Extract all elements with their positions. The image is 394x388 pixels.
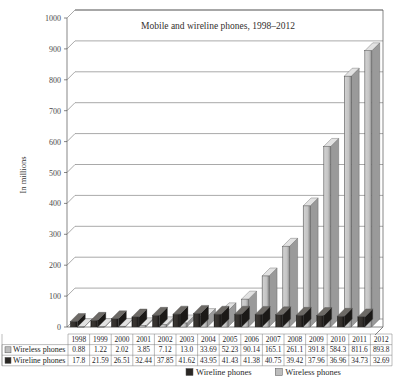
y-axis-tick-label: 900 <box>49 45 61 54</box>
data-table: 1998199920002001200220032004200520062007… <box>2 334 392 366</box>
table-cell: 37.96 <box>308 356 325 365</box>
table-header-year: 2009 <box>309 335 324 344</box>
table-cell: 893.8 <box>373 345 390 354</box>
y-axis-tick-label: 100 <box>49 292 61 301</box>
table-cell: 33.69 <box>200 345 217 354</box>
table-header-year: 2010 <box>331 335 346 344</box>
table-cell: 40.75 <box>265 356 282 365</box>
bar-series-group <box>70 43 379 328</box>
table-cell: 165.1 <box>265 345 282 354</box>
table-header-year: 2002 <box>158 335 173 344</box>
y-axis-tick-labels: 01002003004005006007008009001000 <box>45 14 67 332</box>
table-header-year: 2007 <box>266 335 281 344</box>
table-cell: 39.42 <box>286 356 303 365</box>
y-axis-tick-label: 300 <box>49 230 61 239</box>
table-header-year: 2004 <box>201 335 216 344</box>
table-cell: 41.62 <box>178 356 195 365</box>
table-cell: 32.69 <box>373 356 390 365</box>
table-cell: 34.73 <box>351 356 368 365</box>
table-header-year: 1998 <box>71 335 86 344</box>
bar-wireless-2010 <box>324 138 339 327</box>
table-cell: 3.85 <box>137 345 150 354</box>
y-axis-tick-label: 700 <box>49 107 61 116</box>
table-cell: 52.23 <box>222 345 239 354</box>
table-cell: 37.85 <box>157 356 174 365</box>
table-cell: 43.95 <box>200 356 217 365</box>
table-cell: 1.22 <box>94 345 107 354</box>
y-axis-tick-label: 800 <box>49 76 61 85</box>
y-axis-tick-label: 200 <box>49 261 61 270</box>
legend-swatch-wireless <box>275 369 282 376</box>
table-cell: 90.14 <box>243 345 260 354</box>
table-cell: 41.38 <box>243 356 260 365</box>
table-cell: 7.12 <box>159 345 172 354</box>
table-cell: 584.3 <box>330 345 347 354</box>
y-axis-title: In millions <box>18 156 28 193</box>
legend-swatch-wireline <box>186 369 193 376</box>
table-cell: 0.88 <box>72 345 85 354</box>
y-axis-tick-label: 400 <box>49 199 61 208</box>
table-cell: 21.59 <box>92 356 109 365</box>
legend-label-wireless: Wireless phones <box>285 367 341 377</box>
table-cell: 391.8 <box>308 345 325 354</box>
table-header-year: 2003 <box>179 335 194 344</box>
gridline <box>67 103 383 111</box>
table-cell: 13.0 <box>180 345 193 354</box>
table-cell: 261.1 <box>286 345 303 354</box>
y-axis-tick-label: 600 <box>49 138 61 147</box>
gridline <box>67 41 383 49</box>
table-cell: 811.6 <box>351 345 368 354</box>
table-header-year: 2008 <box>287 335 302 344</box>
table-header-year: 2000 <box>115 335 130 344</box>
legend-label-wireline: Wireline phones <box>196 367 252 377</box>
chart-legend: Wireline phonesWireless phones <box>186 367 341 377</box>
y-axis-tick-label: 0 <box>57 323 61 332</box>
table-header-year: 2001 <box>136 335 151 344</box>
table-header-year: 1999 <box>93 335 108 344</box>
table-row-label: Wireline phones <box>13 356 65 365</box>
chart-figure: 01002003004005006007008009001000 In mill… <box>0 0 394 388</box>
y-axis-tick-label: 500 <box>49 169 61 178</box>
table-cell: 32.44 <box>135 356 152 365</box>
gridline <box>67 72 383 80</box>
gridline <box>67 10 383 18</box>
table-row-swatch <box>5 357 11 363</box>
table-cell: 17.8 <box>72 356 85 365</box>
table-header-year: 2005 <box>223 335 238 344</box>
y-axis-tick-label: 1000 <box>45 14 61 23</box>
table-cell: 26.51 <box>114 356 131 365</box>
table-header-year: 2011 <box>352 335 367 344</box>
table-header-year: 2012 <box>374 335 389 344</box>
bar-chart-canvas: 01002003004005006007008009001000 In mill… <box>0 0 394 388</box>
table-header-year: 2006 <box>244 335 259 344</box>
table-cell: 41.43 <box>222 356 239 365</box>
table-cell: 2.02 <box>116 345 129 354</box>
table-cell: 36.96 <box>330 356 347 365</box>
bar-wireless-2012 <box>365 43 380 327</box>
chart-title: Mobile and wireline phones, 1998–2012 <box>141 21 295 31</box>
table-row-swatch <box>5 347 11 353</box>
table-row-label: Wireless phones <box>13 345 65 354</box>
bar-wireless-2011 <box>344 68 359 327</box>
